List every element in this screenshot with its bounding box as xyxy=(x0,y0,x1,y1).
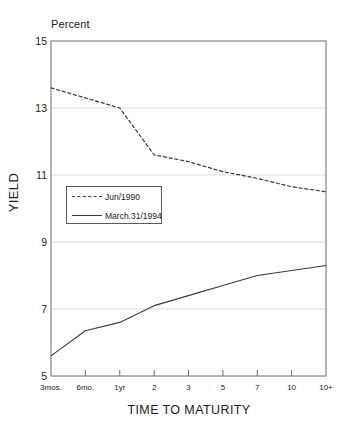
legend[interactable]: Jun/1990 March.31/1994 xyxy=(66,186,162,224)
legend-label: March.31/1994 xyxy=(105,211,162,221)
x-axis-ticks xyxy=(85,370,291,376)
yield-curve-chart: Percent YIELD TIME TO MATURITY 151311975… xyxy=(0,0,344,437)
series-line xyxy=(51,88,326,192)
legend-item-jun-1990[interactable]: Jun/1990 xyxy=(67,187,161,206)
legend-item-march-31-1994[interactable]: March.31/1994 xyxy=(67,206,161,225)
dashed-line-swatch-icon xyxy=(72,192,102,202)
solid-line-swatch-icon xyxy=(72,211,102,221)
series-line xyxy=(51,265,326,355)
plot-area xyxy=(0,0,344,437)
legend-label: Jun/1990 xyxy=(105,192,140,202)
